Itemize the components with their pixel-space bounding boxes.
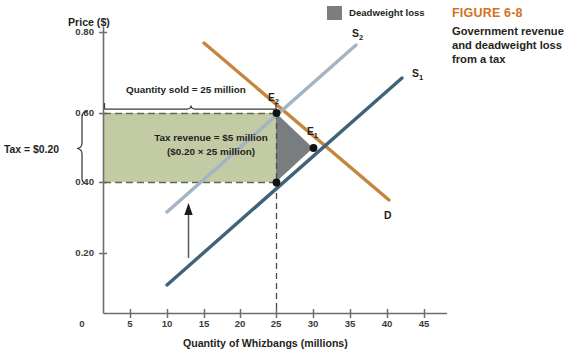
point-e2	[273, 109, 281, 117]
point-label-e2: E2	[268, 92, 279, 106]
tax-revenue-line-2: ($0.20 × 25 million)	[167, 146, 255, 157]
x-tick-label-40: 40	[377, 318, 397, 329]
x-tick-label-30: 30	[303, 318, 323, 329]
point-producer-price	[273, 179, 281, 187]
tax-revenue-line-1: Tax revenue = $5 million	[154, 132, 268, 143]
point-e1	[310, 144, 318, 152]
y-tick-label-080: 0.80	[66, 26, 94, 37]
chart-plot-area: Price ($) Quantity of Whizbangs (million…	[0, 0, 452, 358]
x-axis-title: Quantity of Whizbangs (millions)	[183, 337, 348, 349]
figure-caption: FIGURE 6-8 Government revenue and deadwe…	[452, 6, 574, 67]
tax-bracket-label: Tax = $0.20	[4, 144, 59, 155]
curve-label-s2: S2	[352, 28, 363, 42]
quantity-sold-brace	[105, 103, 277, 109]
quantity-sold-label: Quantity sold = 25 million	[126, 84, 246, 95]
point-label-e1: E1	[307, 126, 318, 140]
figure-title: Government revenue and deadweight loss f…	[452, 24, 574, 67]
x-tick-label-25: 25	[266, 318, 286, 329]
curve-label-s2-subscript: 2	[359, 33, 363, 42]
curve-label-s1: S1	[412, 68, 423, 82]
supply-shift-arrow	[184, 203, 192, 258]
x-tick-label-10: 10	[157, 318, 177, 329]
figure-6-8: Deadweight loss FIGURE 6-8 Government re…	[0, 0, 580, 358]
y-tick-label-060: 0.60	[66, 107, 94, 118]
y-tick-label-020: 0.20	[66, 247, 94, 258]
tax-bracket-brace	[77, 111, 88, 184]
x-tick-label-20: 20	[230, 318, 250, 329]
figure-number: FIGURE 6-8	[452, 6, 574, 21]
x-tick-label-45: 45	[414, 318, 434, 329]
point-label-e2-subscript: 2	[275, 97, 279, 106]
y-tick-label-040: 0.40	[66, 176, 94, 187]
x-tick-label-15: 15	[194, 318, 214, 329]
x-tick-label-5: 5	[120, 318, 140, 329]
curve-label-d: D	[384, 210, 392, 221]
tax-revenue-label: Tax revenue = $5 million ($0.20 × 25 mil…	[136, 131, 286, 159]
curve-label-s1-subscript: 1	[419, 73, 423, 82]
x-tick-label-35: 35	[340, 318, 360, 329]
x-tick-label-0: 0	[72, 318, 92, 329]
point-label-e1-subscript: 1	[314, 131, 318, 140]
